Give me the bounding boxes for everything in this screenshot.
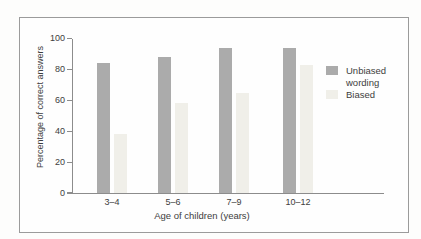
x-tick-label: 5–6 xyxy=(151,197,195,208)
y-tick-mark xyxy=(67,38,72,39)
y-axis-line xyxy=(72,39,73,194)
y-tick-mark xyxy=(67,69,72,70)
y-tick-label: 40 xyxy=(34,126,65,137)
x-tick-label: 10–12 xyxy=(276,197,320,208)
bar-unbiased-wording-7-9 xyxy=(219,48,232,193)
y-tick-label: 80 xyxy=(34,64,65,75)
legend-swatch-biased xyxy=(326,90,338,99)
x-axis-line xyxy=(72,193,384,194)
bar-unbiased-wording-10-12 xyxy=(283,48,296,193)
figure-frame: Percentage of correct answers 0204060801… xyxy=(19,17,409,233)
y-tick-mark xyxy=(67,162,72,163)
y-tick-label: 60 xyxy=(34,95,65,106)
bar-biased-5-6 xyxy=(175,103,188,193)
figure-page: Percentage of correct answers 0204060801… xyxy=(0,0,421,239)
legend-item-biased: Biased xyxy=(326,89,404,101)
legend-label-unbiased-wording: Unbiased wording xyxy=(346,65,404,88)
legend-swatch-unbiased-wording xyxy=(326,66,338,75)
y-tick-mark xyxy=(67,192,72,193)
x-axis-title: Age of children (years) xyxy=(72,210,332,221)
x-tick-label: 7–9 xyxy=(212,197,256,208)
legend-label-biased: Biased xyxy=(346,89,404,101)
plot-area: 0204060801003–45–67–910–12 xyxy=(20,18,408,232)
y-tick-label: 0 xyxy=(34,188,65,199)
y-tick-mark xyxy=(67,131,72,132)
bar-biased-10-12 xyxy=(300,65,313,193)
bar-biased-3-4 xyxy=(114,134,127,193)
y-tick-label: 20 xyxy=(34,157,65,168)
x-tick-label: 3–4 xyxy=(90,197,134,208)
legend-item-unbiased-wording: Unbiased wording xyxy=(326,65,404,88)
y-tick-label: 100 xyxy=(34,33,65,44)
bar-biased-7-9 xyxy=(236,93,249,193)
bar-unbiased-wording-3-4 xyxy=(97,63,110,193)
y-tick-mark xyxy=(67,100,72,101)
bar-unbiased-wording-5-6 xyxy=(158,57,171,193)
